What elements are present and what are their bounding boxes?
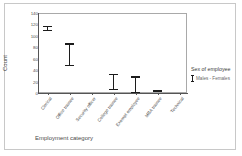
errorbar-college-trainee — [109, 74, 118, 91]
y-tick-label: 120 — [31, 22, 38, 27]
legend-title: Sex of employee — [191, 66, 242, 73]
y-tick-label: 100 — [31, 33, 38, 38]
x-category-label-technical: Technical — [169, 96, 184, 114]
errorbar-stem — [69, 43, 70, 66]
errorbar-stem — [113, 74, 114, 91]
x-category-label-mba-trainee: MBA trainee — [144, 96, 163, 118]
errorbar-icon — [191, 75, 194, 82]
x-category-label-college-trainee: College trainee — [96, 96, 119, 123]
errorbar-cap-bottom — [43, 30, 52, 31]
errorbar-cap-bottom — [109, 89, 118, 90]
legend-entry: Males - Females — [191, 75, 242, 82]
errorbar-mba-trainee — [153, 90, 162, 92]
x-category-label-exempt-employee: Exempt employee — [115, 96, 141, 127]
errorbar-exempt-employee — [131, 76, 140, 93]
y-axis-title: Count — [2, 55, 8, 71]
x-category-label-security-officer: Security officer — [75, 96, 97, 122]
x-axis-title: Employment category — [35, 135, 93, 141]
x-category-label-office-trainee: Office trainee — [55, 96, 75, 120]
errorbar-stem — [135, 76, 136, 93]
errorbar-cap-bottom — [153, 91, 162, 92]
x-category-label-clerical: Clerical — [40, 96, 53, 111]
errorbar-office-trainee — [65, 43, 74, 66]
figure-frame: 140 120 100 80 60 40 20 0 — [4, 3, 236, 150]
legend-entry-label: Males - Females — [196, 76, 230, 82]
y-axis-ticks: 140 120 100 80 60 40 20 0 — [5, 4, 38, 149]
legend: Sex of employee Males - Females — [191, 66, 242, 82]
errorbar-clerical — [43, 26, 52, 32]
y-axis-line — [38, 13, 39, 94]
errorbar-cap-bottom — [65, 65, 74, 66]
y-tick-label: 140 — [31, 11, 38, 16]
